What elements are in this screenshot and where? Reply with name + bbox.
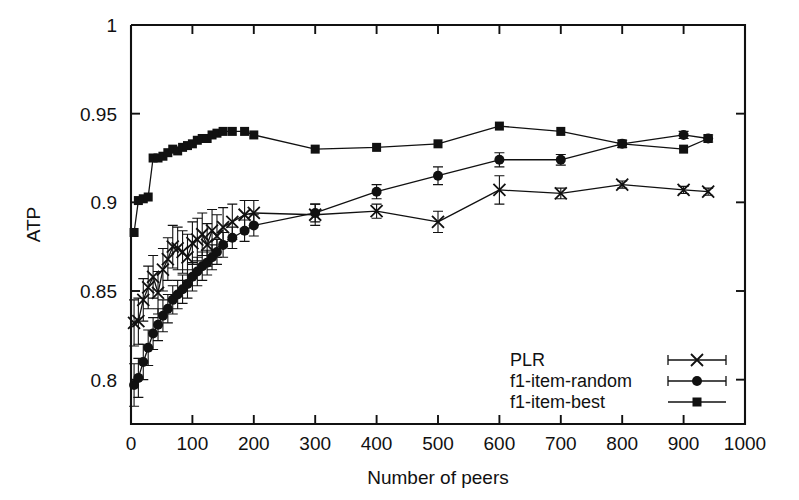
marker-circle — [133, 373, 143, 383]
marker-square-legend — [693, 398, 702, 407]
x-tick-label: 100 — [177, 433, 209, 454]
marker-circle — [138, 357, 148, 367]
x-tick-label: 0 — [126, 433, 137, 454]
y-tick-label: 1 — [106, 15, 117, 36]
y-tick-label: 0.9 — [91, 192, 117, 213]
y-tick-label: 0.8 — [91, 370, 117, 391]
marker-circle — [148, 329, 158, 339]
x-tick-label: 900 — [668, 433, 700, 454]
marker-circle — [310, 208, 320, 218]
legend-label: f1-item-best — [510, 392, 605, 412]
x-tick-label: 200 — [238, 433, 270, 454]
marker-circle — [227, 233, 237, 243]
marker-square — [311, 145, 320, 154]
x-tick-label: 800 — [606, 433, 638, 454]
marker-circle — [679, 130, 689, 140]
marker-circle — [372, 187, 382, 197]
marker-square — [249, 130, 258, 139]
marker-circle — [556, 155, 566, 165]
marker-square — [618, 139, 627, 148]
legend-entry[interactable]: f1-item-random — [510, 371, 726, 391]
y-tick-label: 0.85 — [80, 281, 117, 302]
marker-square — [219, 127, 228, 136]
x-tick-label: 500 — [422, 433, 454, 454]
x-axis-title: Number of peers — [367, 467, 509, 488]
series-f1-item-random — [129, 130, 713, 406]
legend-label: PLR — [510, 350, 545, 370]
marker-square — [130, 228, 139, 237]
marker-square — [556, 127, 565, 136]
x-tick-label: 700 — [545, 433, 577, 454]
marker-square — [228, 127, 237, 136]
marker-circle — [494, 155, 504, 165]
marker-square — [240, 127, 249, 136]
atp-vs-peers-chart: 010020030040050060070080090010000.80.850… — [0, 0, 799, 500]
legend-entry[interactable]: f1-item-best — [510, 392, 726, 412]
marker-circle — [143, 343, 153, 353]
marker-square — [495, 122, 504, 131]
chart-canvas: 010020030040050060070080090010000.80.850… — [0, 0, 799, 500]
y-axis-title: ATP — [23, 207, 44, 243]
marker-square — [372, 143, 381, 152]
x-tick-label: 1000 — [724, 433, 766, 454]
marker-circle — [240, 226, 250, 236]
marker-square — [679, 145, 688, 154]
legend-label: f1-item-random — [510, 371, 632, 391]
marker-square — [434, 139, 443, 148]
legend-entry[interactable]: PLR — [510, 350, 726, 370]
series-line — [134, 135, 708, 385]
x-tick-label: 600 — [484, 433, 516, 454]
chart-legend: PLRf1-item-randomf1-item-best — [510, 350, 726, 412]
x-tick-label: 300 — [299, 433, 331, 454]
marker-circle — [153, 320, 163, 330]
marker-circle — [218, 240, 228, 250]
marker-square — [704, 134, 713, 143]
marker-circle-legend — [692, 376, 702, 386]
marker-square — [144, 193, 153, 202]
y-tick-label: 0.95 — [80, 104, 117, 125]
series-plr — [128, 176, 714, 346]
marker-circle — [433, 171, 443, 181]
marker-circle — [163, 304, 173, 314]
x-tick-label: 400 — [361, 433, 393, 454]
marker-circle — [249, 220, 259, 230]
